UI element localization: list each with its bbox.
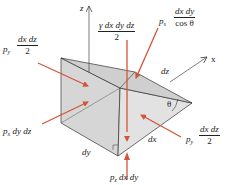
slant-pressure-arrow [136,28,158,78]
theta-label: θ [167,100,171,109]
x-axis [170,57,207,82]
slant-pressure-label: dx dy cos θ [174,7,195,28]
slant-pressure-prefix: ps [159,17,166,27]
back-pressure-label: px dy dz [3,127,31,137]
wedge-diagram: z x dy dx dz θ γ dx dy dz 2 ps dx dy cos… [0,0,227,185]
right-pressure-prefix: py [186,135,193,145]
bottom-pressure-label: pz dx dy [110,173,138,183]
dx-label: dx [148,135,157,144]
left-pressure-prefix: py [3,45,10,55]
dz-label: dz [161,67,169,76]
right-pressure-label: dx dz 2 [199,125,220,146]
x-axis-label: x [211,55,216,64]
left-pressure-label: dx dz 2 [17,35,38,56]
weight-label: γ dx dy dz 2 [98,21,135,42]
dy-label: dy [82,148,91,157]
z-axis-label: z [80,4,84,13]
